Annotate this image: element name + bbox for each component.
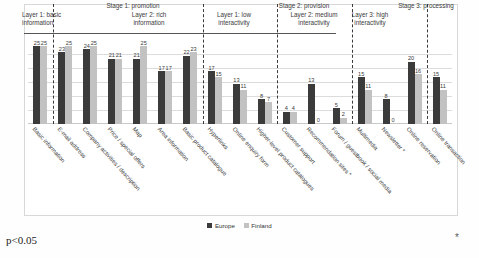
bar-value-label: 22 <box>183 49 189 55</box>
bar-value-label: 15 <box>215 71 221 77</box>
bar-europe: 8 <box>383 99 390 124</box>
bar-value-label: 25 <box>66 40 72 46</box>
bar-value-label: 11 <box>241 83 247 89</box>
chart-header-band: Stage 1: promotion Stage 2: provision St… <box>0 0 479 34</box>
legend-swatch <box>207 223 212 228</box>
bar-europe: 15 <box>358 77 365 124</box>
bar-value-label: 25 <box>41 40 47 46</box>
bar-finland: 21 <box>115 59 122 124</box>
layer-label-5-line2: interactivity <box>354 19 386 26</box>
bar-group: 2125 <box>128 46 153 124</box>
bar-finland: 11 <box>440 90 447 124</box>
bar-group: 87 <box>252 99 277 124</box>
category-axis-labels: Basic informationE-mail addressCompany a… <box>28 126 452 212</box>
layer-label-5: Layer 3: high interactivity <box>334 11 406 27</box>
bar-europe: 8 <box>258 99 265 124</box>
chart-legend: EuropeFinland <box>0 222 479 229</box>
legend-item[interactable]: Finland <box>244 222 272 229</box>
bar-finland: 7 <box>265 102 272 124</box>
bar-value-label: 23 <box>190 46 196 52</box>
bar-value-label: 17 <box>208 65 214 71</box>
bar-finland: 11 <box>240 90 247 124</box>
bar-value-label: 7 <box>267 96 270 102</box>
bar-group: 1311 <box>228 84 253 124</box>
bar-value-label: 2 <box>342 111 345 117</box>
header-rule <box>24 33 336 34</box>
legend-item[interactable]: Europe <box>207 222 234 229</box>
bar-europe: 25 <box>33 46 40 124</box>
bar-value-label: 25 <box>91 40 97 46</box>
bar-value-label: 17 <box>159 65 165 71</box>
bar-finland: 4 <box>290 112 297 124</box>
layer-label-1-line1: Layer 1: basic <box>22 11 61 18</box>
bar-group: 1717 <box>153 71 178 124</box>
bar-finland: 16 <box>415 74 422 124</box>
bar-finland: 25 <box>90 46 97 124</box>
chart-figure: Stage 1: promotion Stage 2: provision St… <box>0 0 479 258</box>
bar-group: 1511 <box>352 77 377 124</box>
bar-group: 52 <box>327 108 352 124</box>
layer-label-1: Layer 1: basic information <box>22 11 98 27</box>
bar-group: 1511 <box>427 77 452 124</box>
layer-label-1-line2: information <box>22 19 53 26</box>
category-label: Multimedia <box>356 126 380 151</box>
stage-label-3: Stage 3: processing <box>378 2 474 10</box>
bar-value-label: 4 <box>285 105 288 111</box>
bar-europe: 15 <box>433 77 440 124</box>
bar-finland: 17 <box>165 71 172 124</box>
legend-label: Finland <box>251 222 271 229</box>
bar-finland: 23 <box>190 52 197 124</box>
section-divider <box>277 4 278 124</box>
bar-value-label: 24 <box>84 43 90 49</box>
stage-label-2: Stage 2: provision <box>248 2 360 10</box>
bar-finland: 15 <box>215 77 222 124</box>
bar-value-label: 23 <box>59 46 65 52</box>
bar-value-label: 21 <box>134 52 140 58</box>
layer-label-3-line1: Layer 1: low <box>217 11 251 18</box>
bar-value-label: 8 <box>260 93 263 99</box>
category-label: Newsletter * <box>381 126 407 154</box>
bar-group: 1715 <box>203 71 228 124</box>
bar-europe: 4 <box>283 112 290 124</box>
p-value-note: p<0.05 <box>6 234 37 246</box>
bar-group: 130 <box>302 84 327 124</box>
bar-value-label: 4 <box>292 105 295 111</box>
bar-value-label: 0 <box>317 117 320 123</box>
category-label: Basic product catalogue <box>181 126 228 177</box>
bar-finland: 11 <box>365 90 372 124</box>
bar-value-label: 0 <box>392 117 395 123</box>
bar-finland: 25 <box>140 46 147 124</box>
bar-value-label: 15 <box>433 71 439 77</box>
bar-group: 2425 <box>78 46 103 124</box>
bar-europe: 21 <box>133 59 140 124</box>
bar-value-label: 16 <box>415 68 421 74</box>
stage-label-1: Stage 1: promotion <box>58 2 208 10</box>
bar-group: 80 <box>377 99 402 124</box>
bar-value-label: 25 <box>34 40 40 46</box>
bar-value-label: 13 <box>233 77 239 83</box>
bar-europe: 5 <box>333 108 340 124</box>
bar-europe: 20 <box>408 62 415 124</box>
bar-value-label: 11 <box>365 83 371 89</box>
bar-group: 2016 <box>402 62 427 124</box>
bar-group: 2325 <box>53 46 78 124</box>
bar-europe: 13 <box>308 84 315 124</box>
bar-group: 2121 <box>103 59 128 124</box>
layer-label-2-line1: Layer 2: rich <box>132 11 167 18</box>
bar-value-label: 15 <box>358 71 364 77</box>
bar-europe: 23 <box>58 52 65 124</box>
layer-label-2-line2: information <box>133 19 164 26</box>
bar-value-label: 13 <box>308 77 314 83</box>
bar-value-label: 21 <box>109 52 115 58</box>
bar-group: 44 <box>277 112 302 124</box>
category-label: Map <box>131 126 143 139</box>
bar-finland: 25 <box>65 46 72 124</box>
plot-area: 2525232524252121212517172223171513118744… <box>28 40 452 124</box>
bar-group: 2223 <box>178 52 203 124</box>
significance-marker: * <box>455 232 459 243</box>
bar-europe: 24 <box>83 49 90 124</box>
category-label: Recommendation sites * <box>306 126 353 177</box>
legend-swatch <box>244 223 249 228</box>
bar-value-label: 21 <box>116 52 122 58</box>
layer-label-2: Layer 2: rich information <box>104 11 194 27</box>
